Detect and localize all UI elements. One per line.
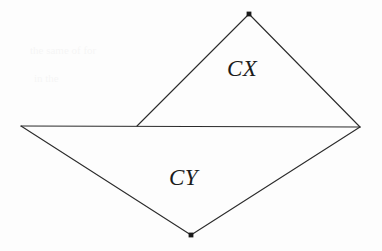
figure-canvas: the same of for in the CX CY xyxy=(0,0,382,251)
top-apex-dot xyxy=(247,12,252,17)
bottom-apex-dot xyxy=(189,233,194,238)
horizontal-baseline xyxy=(21,126,360,127)
region-label-cx: CX xyxy=(227,56,257,82)
region-label-cy: CY xyxy=(169,165,198,191)
lower-left-edge xyxy=(21,126,191,235)
upper-right-edge xyxy=(249,14,360,127)
lower-right-edge xyxy=(191,127,360,235)
geometric-figure xyxy=(0,0,382,251)
